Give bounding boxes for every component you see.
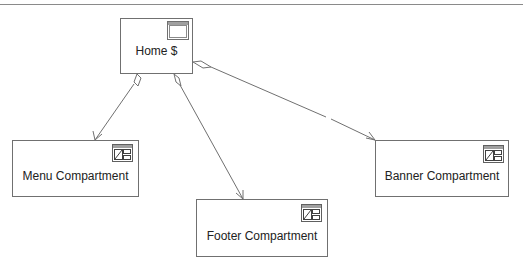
aggregation-diamond-icon: [174, 74, 181, 86]
edge-home-banner[interactable]: [193, 61, 375, 140]
compartment-icon: [112, 144, 133, 162]
node-home[interactable]: Home $: [120, 18, 193, 74]
node-banner-compartment[interactable]: Banner Compartment: [375, 140, 509, 197]
node-menu-compartment[interactable]: Menu Compartment: [12, 140, 139, 197]
arrowhead-icon: [236, 190, 243, 199]
aggregation-diamond-icon: [193, 61, 211, 68]
node-label: Home $: [121, 44, 192, 58]
node-footer-compartment[interactable]: Footer Compartment: [196, 199, 328, 257]
compartment-icon: [301, 204, 322, 222]
aggregation-diamond-icon: [134, 74, 141, 86]
node-label: Banner Compartment: [376, 169, 508, 183]
compartment-icon: [483, 145, 504, 163]
node-label: Menu Compartment: [13, 169, 138, 183]
edge-home-footer[interactable]: [174, 74, 243, 199]
node-label: Footer Compartment: [197, 229, 327, 243]
window-icon: [167, 21, 189, 40]
edge-home-menu[interactable]: [93, 74, 141, 140]
